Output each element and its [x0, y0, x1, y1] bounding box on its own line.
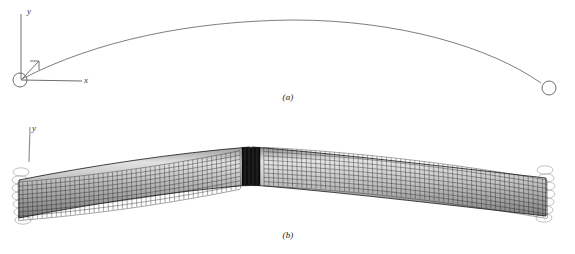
z-axis-line-a [21, 61, 39, 80]
right-hinge-circle-a [542, 81, 556, 95]
x-axis-line-a [21, 80, 82, 81]
figure-vector-layer [0, 0, 575, 254]
panel-a-group [13, 14, 556, 95]
y-axis-label-b: y [32, 123, 36, 133]
panel-a-caption: (a) [268, 92, 308, 102]
shell-body-right-fill [252, 147, 546, 216]
arch-centerline-curve [22, 20, 541, 83]
coordinate-axis-b [29, 127, 30, 162]
coordinate-triad-a [13, 14, 82, 87]
panel-b-caption: (b) [268, 230, 308, 240]
center-diaphragm [242, 147, 260, 186]
y-axis-label-a: y [27, 6, 31, 16]
panel-b-group [12, 127, 555, 224]
y-axis-line-b [29, 127, 30, 162]
x-axis-label-a: x [84, 75, 88, 85]
figure-container: y x y (a) (b) [0, 0, 575, 254]
